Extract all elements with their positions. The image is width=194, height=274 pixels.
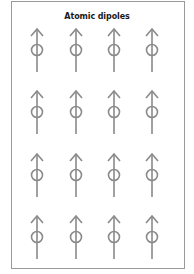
dipole-arrow-icon — [70, 29, 82, 72]
dipole-arrow-icon — [146, 29, 158, 72]
dipole-arrow-icon — [70, 216, 82, 259]
dipole-arrow-icon — [70, 91, 82, 134]
dipole-arrow-icon — [146, 216, 158, 259]
dipole-arrow-icon — [108, 91, 120, 134]
dipole-array — [31, 29, 158, 259]
dipole-arrow-icon — [108, 154, 120, 197]
dipole-arrow-icon — [31, 216, 43, 259]
dipole-arrow-icon — [108, 216, 120, 259]
dipole-arrow-icon — [146, 91, 158, 134]
dipole-grid — [0, 0, 194, 274]
dipole-arrow-icon — [31, 154, 43, 197]
dipole-arrow-icon — [31, 29, 43, 72]
dipole-arrow-icon — [70, 154, 82, 197]
dipole-arrow-icon — [31, 91, 43, 134]
dipole-arrow-icon — [108, 29, 120, 72]
dipole-arrow-icon — [146, 154, 158, 197]
